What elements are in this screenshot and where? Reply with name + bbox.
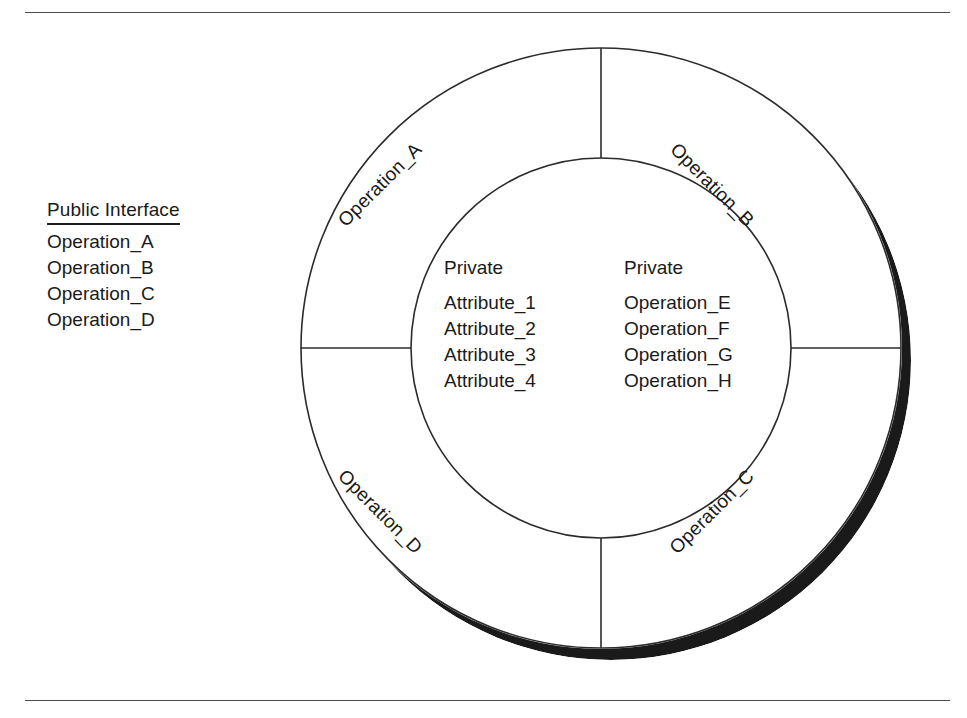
list-item: Operation_E	[624, 290, 764, 316]
list-item: Operation_F	[624, 316, 764, 342]
private-operations-column: Private Operation_E Operation_F Operatio…	[624, 256, 764, 394]
legend-operation-list: Operation_A Operation_B Operation_C Oper…	[47, 229, 257, 333]
list-item: Attribute_4	[444, 368, 584, 394]
private-operations-list: Operation_E Operation_F Operation_G Oper…	[624, 290, 764, 394]
private-attributes-column: Private Attribute_1 Attribute_2 Attribut…	[444, 256, 584, 394]
list-item: Attribute_3	[444, 342, 584, 368]
legend-item: Operation_D	[47, 307, 257, 333]
legend-title: Public Interface	[47, 197, 180, 225]
list-item: Operation_H	[624, 368, 764, 394]
list-item: Attribute_1	[444, 290, 584, 316]
private-attributes-heading: Private	[444, 256, 584, 280]
legend-item: Operation_A	[47, 229, 257, 255]
private-members-block: Private Attribute_1 Attribute_2 Attribut…	[444, 256, 764, 394]
list-item: Attribute_2	[444, 316, 584, 342]
public-interface-legend: Public Interface Operation_A Operation_B…	[47, 197, 257, 333]
legend-item: Operation_C	[47, 281, 257, 307]
list-item: Operation_G	[624, 342, 764, 368]
legend-item: Operation_B	[47, 255, 257, 281]
private-operations-heading: Private	[624, 256, 764, 280]
private-attributes-list: Attribute_1 Attribute_2 Attribute_3 Attr…	[444, 290, 584, 394]
